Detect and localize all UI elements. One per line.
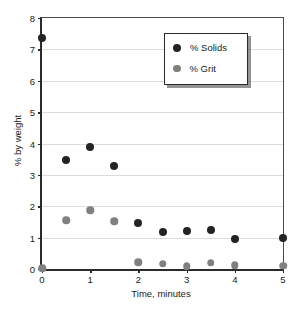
legend-entry-grit: % Grit	[173, 63, 216, 74]
data-point	[183, 263, 191, 271]
data-point	[62, 156, 70, 164]
y-tick	[38, 175, 42, 176]
y-tick	[38, 238, 42, 239]
gridline	[42, 175, 283, 176]
x-tick-label: 3	[184, 274, 189, 285]
x-tick-label: 2	[136, 274, 141, 285]
data-point	[86, 143, 94, 151]
x-tick	[138, 269, 139, 273]
data-point	[207, 226, 215, 234]
gridline	[42, 238, 283, 239]
y-tick	[38, 206, 42, 207]
data-point	[38, 34, 46, 42]
x-tick-label: 1	[88, 274, 93, 285]
data-point	[62, 217, 70, 225]
data-point	[279, 234, 287, 242]
data-point	[279, 262, 287, 270]
y-tick-label: 8	[30, 13, 35, 24]
legend-marker-solids-icon	[173, 44, 181, 52]
x-tick-label: 0	[39, 274, 44, 285]
y-tick	[38, 49, 42, 50]
x-tick-label: 4	[232, 274, 237, 285]
data-point	[183, 227, 191, 235]
legend-entry-solids: % Solids	[173, 42, 227, 53]
y-tick-label: 1	[30, 232, 35, 243]
chart-legend: % Solids % Grit	[164, 33, 248, 85]
y-tick	[38, 144, 42, 145]
data-point	[231, 261, 239, 269]
x-tick	[187, 269, 188, 273]
gridline	[42, 112, 283, 113]
y-tick-label: 6	[30, 75, 35, 86]
data-point	[86, 206, 94, 214]
y-tick-label: 2	[30, 201, 35, 212]
x-tick	[283, 269, 284, 273]
y-tick-label: 3	[30, 169, 35, 180]
data-point	[231, 235, 239, 243]
data-point	[134, 219, 142, 227]
y-tick	[38, 112, 42, 113]
chart-figure: % by weight 012345678 012345 % Solids % …	[0, 0, 298, 310]
y-tick-label: 7	[30, 44, 35, 55]
data-point	[110, 162, 118, 170]
x-tick	[90, 269, 91, 273]
y-tick-label: 0	[30, 264, 35, 275]
data-point	[159, 228, 167, 236]
legend-label-grit: % Grit	[190, 63, 216, 74]
y-tick-label: 4	[30, 138, 35, 149]
data-point	[159, 260, 167, 268]
legend-marker-grit-icon	[173, 65, 181, 73]
legend-label-solids: % Solids	[190, 42, 227, 53]
x-tick	[235, 269, 236, 273]
data-point	[38, 265, 46, 273]
data-point	[135, 258, 143, 266]
x-axis-title: Time, minutes	[40, 288, 282, 299]
x-tick-label: 5	[280, 274, 285, 285]
y-tick	[38, 269, 42, 270]
gridline	[42, 144, 283, 145]
x-tick	[42, 269, 43, 273]
y-tick	[38, 18, 42, 19]
data-point	[207, 259, 215, 267]
data-point	[111, 218, 119, 226]
y-tick	[38, 81, 42, 82]
gridline	[42, 206, 283, 207]
y-axis-title: % by weight	[12, 86, 23, 196]
y-tick-label: 5	[30, 107, 35, 118]
